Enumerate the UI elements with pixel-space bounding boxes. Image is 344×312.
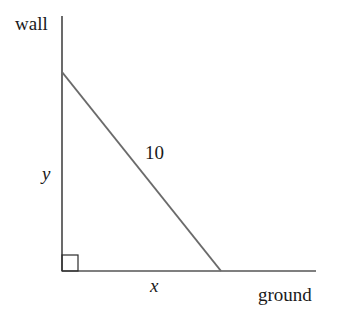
ladder-line <box>62 72 221 271</box>
hypotenuse-label: 10 <box>145 143 164 162</box>
ladder-diagram: wall 10 y x ground <box>0 0 344 312</box>
right-angle-marker <box>62 255 78 271</box>
wall-label: wall <box>15 14 48 33</box>
y-label: y <box>42 164 50 183</box>
ground-label: ground <box>258 285 312 304</box>
diagram-lines <box>0 0 344 312</box>
x-label: x <box>150 276 158 295</box>
